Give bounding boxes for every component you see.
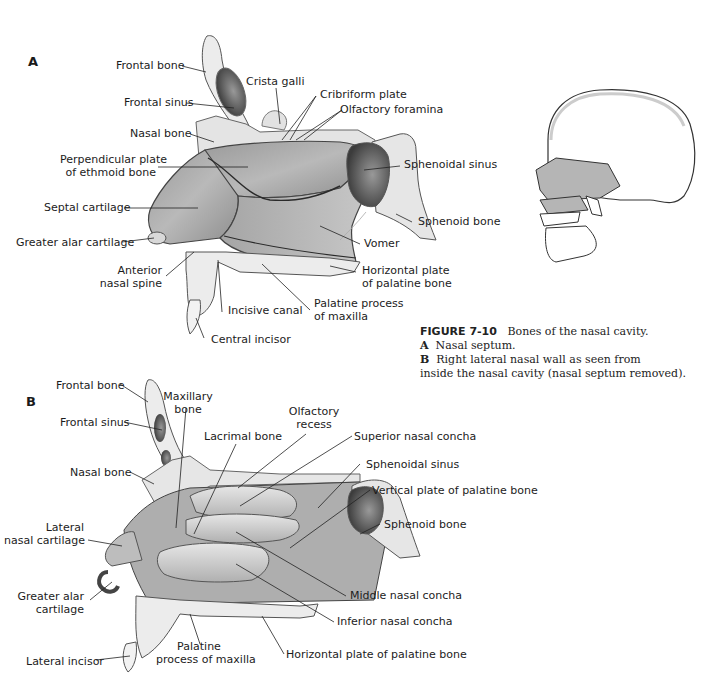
label-line: Perpendicular plate bbox=[60, 153, 156, 166]
label-a-olfactory-foramina: Olfactory foramina bbox=[340, 103, 443, 116]
label-b-frontal-bone: Frontal bone bbox=[56, 379, 125, 392]
label-line: Palatine bbox=[156, 640, 242, 653]
label-b-lateral-nasal-cartilage: Lateral nasal cartilage bbox=[4, 521, 84, 547]
label-a-cribriform-plate: Cribriform plate bbox=[320, 88, 407, 101]
label-a-greater-alar-cartilage: Greater alar cartilage bbox=[16, 236, 134, 249]
caption-item-b-cont: inside the nasal cavity (nasal septum re… bbox=[420, 367, 720, 381]
caption-text: Right lateral nasal wall as seen from bbox=[436, 353, 640, 366]
label-b-inferior-concha: Inferior nasal concha bbox=[337, 615, 452, 628]
label-a-perpendicular-plate: Perpendicular plate of ethmoid bone bbox=[60, 153, 156, 179]
label-line: Greater alar bbox=[14, 590, 84, 603]
figure-caption: FIGURE 7-10 Bones of the nasal cavity. A… bbox=[420, 325, 720, 381]
skull-thumbnail bbox=[536, 90, 695, 262]
panel-a-letter: A bbox=[28, 54, 38, 69]
label-b-frontal-sinus: Frontal sinus bbox=[60, 416, 130, 429]
panel-b-drawing bbox=[99, 380, 420, 672]
label-a-incisive-canal: Incisive canal bbox=[228, 304, 302, 317]
label-b-sphenoidal-sinus: Sphenoidal sinus bbox=[366, 458, 459, 471]
caption-item-b: B Right lateral nasal wall as seen from bbox=[420, 353, 720, 367]
label-line: Palatine process bbox=[314, 297, 404, 310]
label-a-frontal-bone: Frontal bone bbox=[116, 59, 185, 72]
panel-b-letter: B bbox=[26, 394, 36, 409]
label-b-maxillary-bone: Maxillary bone bbox=[158, 390, 218, 416]
label-b-greater-alar-cartilage: Greater alar cartilage bbox=[14, 590, 84, 616]
label-line: nasal cartilage bbox=[4, 534, 84, 547]
label-a-sphenoid-bone: Sphenoid bone bbox=[418, 215, 500, 228]
label-b-lateral-incisor: Lateral incisor bbox=[26, 655, 104, 668]
caption-text: Nasal septum. bbox=[436, 339, 516, 352]
label-a-crista-galli: Crista galli bbox=[246, 75, 304, 88]
label-a-vomer: Vomer bbox=[364, 237, 399, 250]
label-a-central-incisor: Central incisor bbox=[211, 333, 291, 346]
label-a-horizontal-plate: Horizontal plate of palatine bone bbox=[362, 264, 452, 290]
figure-title: Bones of the nasal cavity. bbox=[507, 325, 648, 338]
label-line: cartilage bbox=[14, 603, 84, 616]
label-line: nasal spine bbox=[82, 277, 162, 290]
label-line: Horizontal plate bbox=[362, 264, 452, 277]
label-b-palatine-process: Palatine process of maxilla bbox=[156, 640, 242, 666]
label-b-sphenoid-bone: Sphenoid bone bbox=[384, 518, 466, 531]
label-b-nasal-bone: Nasal bone bbox=[70, 466, 131, 479]
label-b-horizontal-plate: Horizontal plate of palatine bone bbox=[286, 648, 467, 661]
label-line: Maxillary bbox=[158, 390, 218, 403]
label-line: bone bbox=[158, 403, 218, 416]
label-a-sphenoidal-sinus: Sphenoidal sinus bbox=[404, 158, 497, 171]
label-b-lacrimal-bone: Lacrimal bone bbox=[204, 430, 282, 443]
label-b-superior-concha: Superior nasal concha bbox=[354, 430, 476, 443]
label-a-septal-cartilage: Septal cartilage bbox=[44, 201, 131, 214]
label-b-olfactory-recess: Olfactory recess bbox=[284, 405, 344, 431]
figure-number: FIGURE 7-10 bbox=[420, 325, 497, 338]
caption-key: A bbox=[420, 339, 429, 352]
label-a-palatine-process: Palatine process of maxilla bbox=[314, 297, 404, 323]
caption-key: B bbox=[420, 353, 429, 366]
label-a-nasal-bone: Nasal bone bbox=[130, 127, 191, 140]
caption-title-line: FIGURE 7-10 Bones of the nasal cavity. bbox=[420, 325, 720, 339]
label-line: of palatine bone bbox=[362, 277, 452, 290]
label-line: recess bbox=[284, 418, 344, 431]
label-line: Olfactory bbox=[284, 405, 344, 418]
label-line: Lateral bbox=[4, 521, 84, 534]
label-line: Anterior bbox=[82, 264, 162, 277]
label-line: process of maxilla bbox=[156, 653, 242, 666]
label-b-middle-concha: Middle nasal concha bbox=[350, 589, 462, 602]
label-b-vertical-plate: Vertical plate of palatine bone bbox=[372, 484, 538, 497]
label-a-anterior-nasal-spine: Anterior nasal spine bbox=[82, 264, 162, 290]
caption-item-a: A Nasal septum. bbox=[420, 339, 720, 353]
label-line: of maxilla bbox=[314, 310, 404, 323]
label-a-frontal-sinus: Frontal sinus bbox=[124, 96, 194, 109]
label-line: of ethmoid bone bbox=[60, 166, 156, 179]
